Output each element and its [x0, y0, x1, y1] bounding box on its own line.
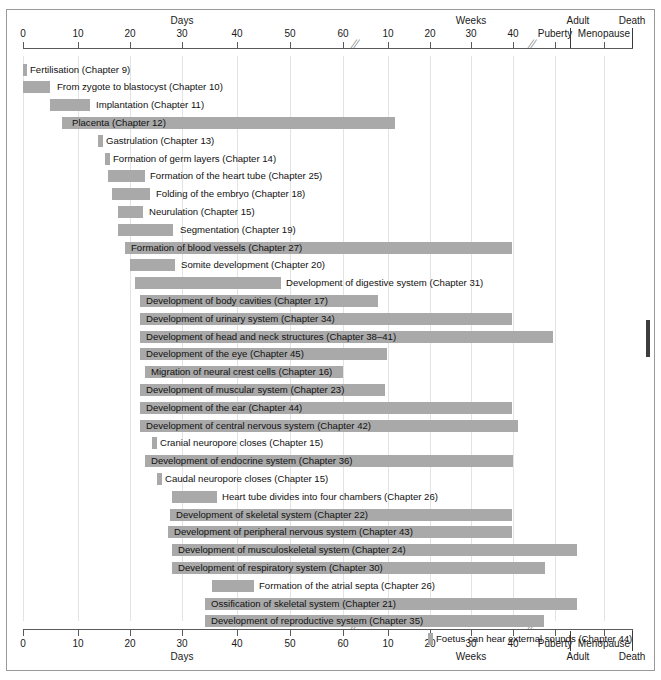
axis-tick-label: 60 — [337, 28, 348, 39]
gantt-row-label: Gastrulation (Chapter 13) — [106, 135, 214, 147]
gantt-bar[interactable] — [23, 81, 50, 93]
page-edge-marker — [646, 320, 650, 357]
axis-tick — [237, 42, 238, 49]
axis-tick-label: 50 — [284, 28, 295, 39]
axis-group-label: Days — [171, 15, 194, 26]
gantt-row-label: Development of skeletal system (Chapter … — [176, 509, 368, 521]
axis-tick-label: 0 — [20, 28, 26, 39]
gantt-row-label: Development of reproductive system (Chap… — [211, 615, 423, 627]
gantt-bar[interactable] — [108, 170, 145, 182]
gantt-row: Migration of neural crest cells (Chapter… — [0, 364, 661, 382]
gantt-bar[interactable] — [135, 277, 281, 289]
gantt-row-label: Development of musculoskeletal system (C… — [178, 544, 406, 556]
gantt-row: Cranial neuropore closes (Chapter 15) — [0, 435, 661, 453]
gantt-row-label: Implantation (Chapter 11) — [96, 99, 204, 111]
gantt-bar[interactable] — [212, 580, 254, 592]
gantt-bar[interactable] — [118, 206, 143, 218]
gantt-row: Development of digestive system (Chapter… — [0, 275, 661, 293]
gantt-row: Development of endocrine system (Chapter… — [0, 453, 661, 471]
gantt-bar[interactable] — [172, 491, 217, 503]
axis-group-label: Weeks — [456, 15, 486, 26]
gantt-row-label: Folding of the embryo (Chapter 18) — [156, 188, 305, 200]
gantt-row: Development of urinary system (Chapter 3… — [0, 311, 661, 329]
axis-group-label: Death — [619, 15, 646, 26]
gantt-row-label: Development of peripheral nervous system… — [174, 526, 413, 538]
gantt-row: Development of peripheral nervous system… — [0, 524, 661, 542]
gantt-row: Development of the ear (Chapter 44) — [0, 400, 661, 418]
axis-tick — [604, 42, 605, 49]
gantt-row: Development of the eye (Chapter 45) — [0, 346, 661, 364]
gantt-row: Folding of the embryo (Chapter 18) — [0, 186, 661, 204]
gantt-row-label: Formation of germ layers (Chapter 14) — [113, 153, 276, 165]
gantt-row-label: Placenta (Chapter 12) — [72, 117, 166, 129]
gantt-row-label: Formation of the atrial septa (Chapter 2… — [259, 580, 435, 592]
axis-tick-label: 40 — [507, 28, 518, 39]
axis-break-mark: // — [526, 36, 537, 52]
gantt-row-label: Development of the eye (Chapter 45) — [146, 348, 304, 360]
gantt-row-label: Cranial neuropore closes (Chapter 15) — [160, 437, 323, 449]
gantt-row-label: Development of head and neck structures … — [146, 331, 396, 343]
gantt-row-label: Foetus can hear external sounds (Chapter… — [436, 633, 632, 645]
gantt-bar[interactable] — [105, 153, 110, 165]
gantt-row: Placenta (Chapter 12) — [0, 115, 661, 133]
axis-group-label: Adult — [567, 15, 590, 26]
gantt-row-label: Caudal neuropore closes (Chapter 15) — [165, 473, 328, 485]
axis-group-label: Death — [619, 651, 646, 662]
gantt-row: Development of body cavities (Chapter 17… — [0, 293, 661, 311]
gantt-bar[interactable] — [23, 64, 27, 76]
axis-tick-label: Puberty — [538, 28, 572, 39]
gantt-row-label: Development of muscular system (Chapter … — [146, 384, 344, 396]
gantt-row: Development of musculoskeletal system (C… — [0, 542, 661, 560]
gantt-row-label: Development of endocrine system (Chapter… — [151, 455, 353, 467]
gantt-row: Formation of blood vessels (Chapter 27) — [0, 240, 661, 258]
axis-tick — [430, 42, 431, 49]
axis-tick — [343, 42, 344, 49]
gantt-row-label: Neurulation (Chapter 15) — [149, 206, 255, 218]
gantt-row: Heart tube divides into four chambers (C… — [0, 489, 661, 507]
axis-tick — [130, 42, 131, 49]
gantt-figure: 010203040506010203040PubertyMenopauseDay… — [0, 0, 661, 680]
gantt-row-label: Somite development (Chapter 20) — [181, 259, 325, 271]
gantt-row: Fertilisation (Chapter 9) — [0, 62, 661, 80]
plot-area: 010203040506010203040PubertyMenopauseDay… — [0, 0, 661, 680]
axis-tick-label: 20 — [424, 28, 435, 39]
gantt-row-label: Development of body cavities (Chapter 17… — [146, 295, 328, 307]
gantt-row-label: Heart tube divides into four chambers (C… — [222, 491, 438, 503]
axis-tick — [555, 42, 556, 49]
axis-tick — [388, 42, 389, 49]
gantt-row: Ossification of skeletal system (Chapter… — [0, 596, 661, 614]
gantt-bar[interactable] — [118, 224, 173, 236]
gantt-bar[interactable] — [98, 135, 103, 147]
axis-stage-divider — [632, 28, 633, 48]
axis-tick — [513, 42, 514, 49]
axis-tick-label: 40 — [231, 28, 242, 39]
axis-tick — [471, 42, 472, 49]
gantt-row-label: From zygote to blastocyst (Chapter 10) — [57, 81, 223, 93]
gantt-bar[interactable] — [157, 473, 162, 485]
gantt-row: Segmentation (Chapter 19) — [0, 222, 661, 240]
gantt-row-label: Development of digestive system (Chapter… — [286, 277, 483, 289]
gantt-bar[interactable] — [50, 99, 90, 111]
gantt-row-label: Formation of the heart tube (Chapter 25) — [150, 170, 322, 182]
axis-tick — [78, 42, 79, 49]
axis-tick — [182, 42, 183, 49]
gantt-row-label: Segmentation (Chapter 19) — [180, 224, 296, 236]
axis-tick — [23, 42, 24, 49]
gantt-bar[interactable] — [428, 633, 433, 645]
gantt-bar[interactable] — [112, 188, 150, 200]
gantt-row: Gastrulation (Chapter 13) — [0, 133, 661, 151]
axis-group-label: Weeks — [456, 651, 486, 662]
axis-tick-label: 10 — [382, 28, 393, 39]
gantt-row: Formation of germ layers (Chapter 14) — [0, 151, 661, 169]
gantt-row: Development of respiratory system (Chapt… — [0, 560, 661, 578]
gantt-row-label: Development of the ear (Chapter 44) — [146, 402, 302, 414]
axis-tick-label: 20 — [124, 28, 135, 39]
axis-stage-divider — [570, 28, 571, 48]
gantt-bar[interactable] — [152, 437, 157, 449]
axis-line — [23, 48, 633, 49]
gantt-row-label: Ossification of skeletal system (Chapter… — [211, 598, 396, 610]
gantt-row: From zygote to blastocyst (Chapter 10) — [0, 79, 661, 97]
axis-tick-label: 10 — [72, 28, 83, 39]
gantt-row-label: Formation of blood vessels (Chapter 27) — [131, 242, 302, 254]
gantt-bar[interactable] — [130, 259, 175, 271]
